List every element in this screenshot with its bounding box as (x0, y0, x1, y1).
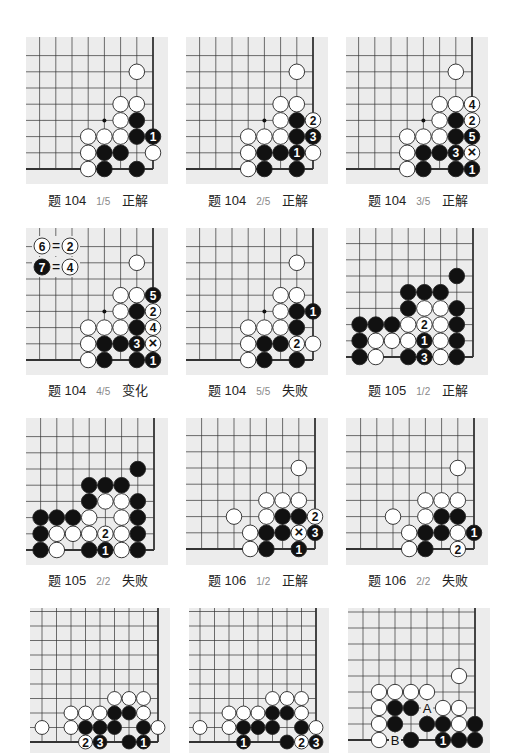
black-stone (130, 461, 146, 477)
white-stone: 4 (464, 96, 480, 112)
white-stone (401, 525, 417, 541)
result-label: 变化 (122, 383, 148, 398)
result-label: 正解 (122, 193, 148, 208)
white-stone (435, 700, 450, 715)
white-stone (371, 700, 386, 715)
white-stone: 2 (305, 113, 321, 129)
black-stone (433, 284, 449, 300)
svg-text:3: 3 (133, 337, 140, 351)
white-stone (275, 493, 291, 509)
black-stone (289, 352, 305, 368)
white-stone (291, 493, 307, 509)
black-stone (259, 541, 275, 557)
svg-text:×: × (294, 523, 303, 540)
problem-label: 题 106 (368, 573, 406, 588)
black-stone: 1 (145, 352, 161, 368)
white-stone (257, 320, 273, 336)
white-stone (80, 320, 96, 336)
black-stone: 3 (307, 525, 323, 541)
result-label: 失败 (282, 383, 308, 398)
fraction: 1/5 (96, 196, 110, 207)
black-stone (130, 526, 146, 542)
black-stone (416, 161, 432, 177)
white-stone (137, 692, 151, 706)
svg-text:3: 3 (310, 130, 317, 144)
black-stone: 3 (448, 145, 464, 161)
black-stone (81, 542, 97, 558)
white-stone (79, 706, 93, 720)
diagram-panel-11: 123 (189, 608, 329, 753)
white-stone (98, 494, 114, 510)
white-stone (399, 161, 415, 177)
white-stone (114, 526, 130, 542)
black-stone: 5 (145, 287, 161, 303)
caption-104-3: 题 1043/5正解 (368, 190, 468, 209)
black-stone (384, 317, 400, 333)
white-stone: × (145, 334, 161, 351)
black-stone (450, 509, 466, 525)
white-stone (295, 706, 309, 720)
problem-label: 题 105 (368, 383, 406, 398)
svg-text:5: 5 (469, 130, 476, 144)
problem-label: 题 104 (368, 193, 406, 208)
black-stone (403, 732, 418, 747)
black-stone (130, 542, 146, 558)
result-label: 正解 (282, 193, 308, 208)
svg-text:A: A (423, 701, 432, 716)
white-stone (80, 161, 96, 177)
svg-text:2: 2 (67, 240, 74, 254)
fraction: 3/5 (416, 196, 430, 207)
white-stone: 2 (289, 336, 305, 352)
result-label: 失败 (122, 573, 148, 588)
black-stone (448, 129, 464, 145)
black-stone (108, 706, 122, 720)
black-stone (467, 716, 482, 731)
diagram-panel-104-4: 5243×162=74= (26, 228, 168, 375)
black-stone: 3 (309, 735, 323, 749)
black-stone: 3 (305, 129, 321, 145)
black-stone (33, 510, 49, 526)
black-stone (352, 349, 368, 365)
black-stone (129, 320, 145, 336)
black-stone (108, 721, 122, 735)
white-stone (129, 287, 145, 303)
svg-text:1: 1 (295, 543, 302, 557)
white-stone: 2 (79, 735, 93, 749)
caption-105-2: 题 1052/2失败 (48, 570, 148, 589)
white-stone (371, 732, 386, 747)
black-stone (275, 525, 291, 541)
go-board: 231 (186, 37, 328, 184)
svg-text:2: 2 (150, 305, 157, 319)
white-stone (400, 333, 416, 349)
white-stone (80, 352, 96, 368)
white-stone (289, 96, 305, 112)
white-stone (305, 145, 321, 161)
white-stone (240, 145, 256, 161)
white-stone (399, 129, 415, 145)
white-stone (309, 721, 323, 735)
black-stone (449, 349, 465, 365)
white-stone (113, 129, 129, 145)
white-stone (242, 525, 258, 541)
white-stone (451, 716, 466, 731)
black-stone (295, 721, 309, 735)
white-stone (151, 721, 165, 735)
white-stone (433, 333, 449, 349)
black-stone (289, 161, 305, 177)
white-stone: 4 (145, 320, 161, 336)
diagram-panel-105-2: 21 (26, 418, 168, 565)
black-stone (273, 336, 289, 352)
black-stone (289, 304, 305, 320)
white-stone (368, 349, 384, 365)
white-stone: 2 (307, 509, 323, 525)
black-stone (257, 145, 273, 161)
white-stone (122, 692, 136, 706)
black-stone (387, 700, 402, 715)
white-stone (64, 706, 78, 720)
black-stone (448, 161, 464, 177)
diagram-panel-106-2: 12 (346, 418, 488, 565)
problem-label: 题 104 (48, 383, 86, 398)
white-stone (114, 542, 130, 558)
black-stone (65, 510, 81, 526)
svg-text:1: 1 (310, 305, 317, 319)
